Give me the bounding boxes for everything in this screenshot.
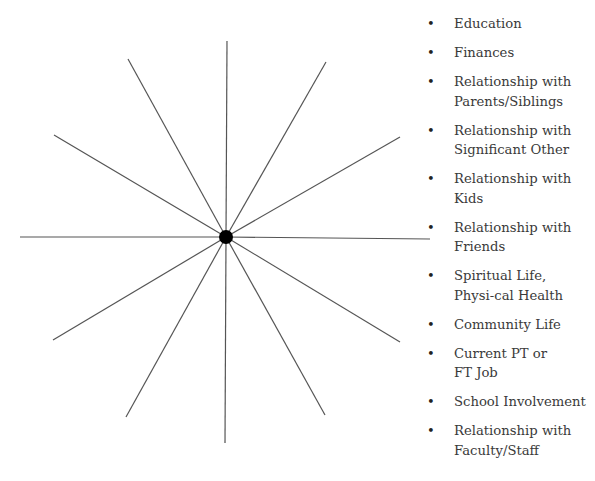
list-item: •Community Life <box>418 315 595 335</box>
bullet-icon: • <box>427 72 435 92</box>
list-item-label: Relationship with Faculty/Staff <box>454 423 571 458</box>
list-item: •Current PT or FT Job <box>418 344 564 383</box>
bullet-icon: • <box>427 266 435 286</box>
wheel-spoke <box>226 237 400 342</box>
bullet-icon: • <box>427 421 435 441</box>
list-item-label: Education <box>454 16 522 31</box>
bullet-icon: • <box>427 315 435 335</box>
list-item: •School Involvement <box>418 392 595 412</box>
bullet-icon: • <box>427 169 435 189</box>
wheel-spoke <box>226 41 227 237</box>
wheel-spoke <box>126 237 226 417</box>
bullet-icon: • <box>427 218 435 238</box>
wheel-spoke <box>54 135 226 237</box>
bullet-icon: • <box>427 121 435 141</box>
list-item-label: Spiritual Life, Physi-cal Health <box>454 268 563 303</box>
list-item-label: Community Life <box>454 317 561 332</box>
wheel-hub <box>219 230 233 244</box>
list-item-label: Relationship with Parents/Siblings <box>454 74 571 109</box>
wheel-spoke <box>226 137 400 237</box>
list-item: •Relationship with Kids <box>418 169 582 208</box>
list-item-label: Finances <box>454 45 514 60</box>
wheel-spoke <box>225 237 226 443</box>
life-areas-list: •Education •Finances •Relationship with … <box>418 14 595 470</box>
life-wheel-diagram <box>0 0 440 481</box>
bullet-icon: • <box>427 43 435 63</box>
list-item: •Relationship with Significant Other <box>418 121 582 160</box>
wheel-spoke <box>128 59 226 237</box>
bullet-icon: • <box>427 14 435 34</box>
bullet-icon: • <box>427 344 435 364</box>
list-item: •Education <box>418 14 595 34</box>
wheel-spoke <box>226 62 326 237</box>
list-item-label: Current PT or FT Job <box>454 346 547 381</box>
list-item-label: Relationship with Significant Other <box>454 123 571 158</box>
list-item: •Finances <box>418 43 595 63</box>
list-item-label: Relationship with Friends <box>454 220 571 255</box>
wheel-spoke <box>53 237 226 340</box>
bullet-icon: • <box>427 392 435 412</box>
wheel-spoke <box>226 237 325 415</box>
list-item-label: Relationship with Kids <box>454 171 571 206</box>
wheel-spoke <box>226 237 430 239</box>
list-item: •Spiritual Life, Physi-cal Health <box>418 266 582 305</box>
list-item: •Relationship with Faculty/Staff <box>418 421 582 460</box>
list-item: •Relationship with Friends <box>418 218 582 257</box>
list-item-label: School Involvement <box>454 394 586 409</box>
list-item: •Relationship with Parents/Siblings <box>418 72 582 111</box>
